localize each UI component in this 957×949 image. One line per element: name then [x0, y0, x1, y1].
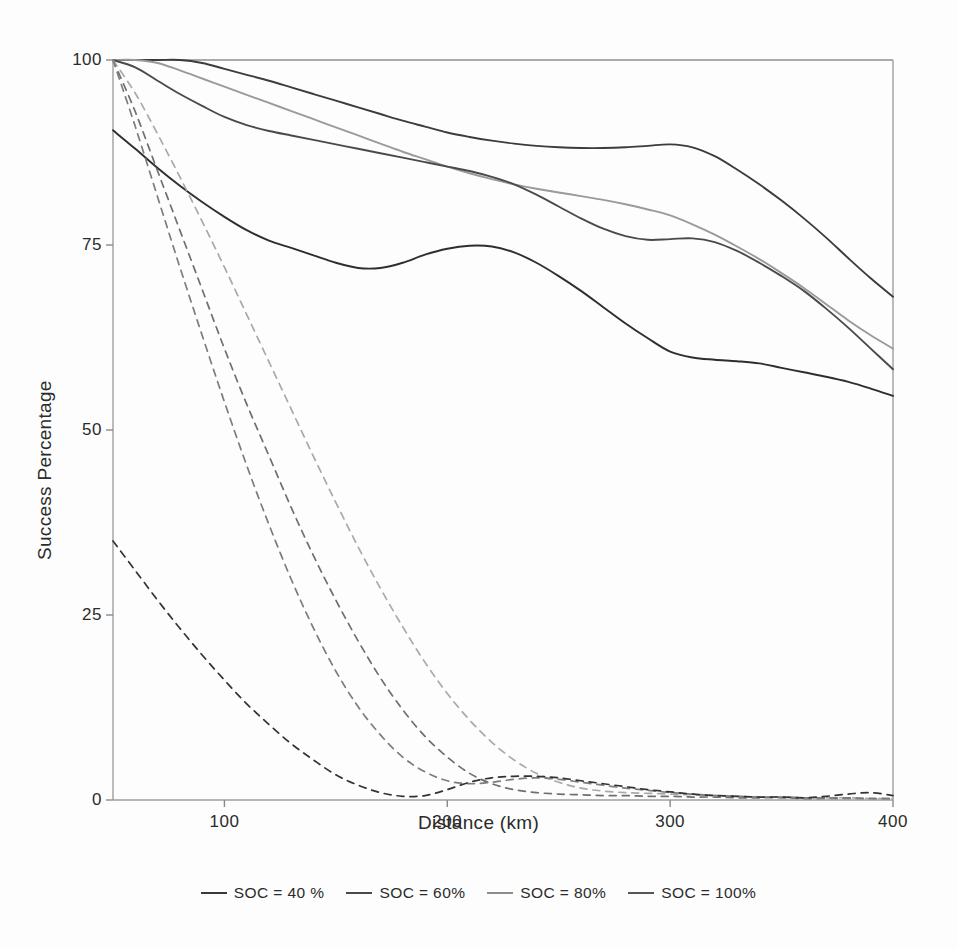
y-tick-label: 25 — [46, 605, 102, 625]
legend-line-icon — [201, 892, 227, 894]
x-axis-title: Distance (km) — [0, 812, 957, 834]
legend-label: SOC = 40 % — [234, 884, 325, 902]
legend-label: SOC = 80% — [520, 884, 606, 902]
series-line — [113, 60, 893, 799]
series-line — [113, 60, 893, 799]
series-line — [113, 60, 893, 369]
y-axis-title: Success Percentage — [34, 380, 56, 560]
legend-item[interactable]: SOC = 40 % — [190, 884, 336, 902]
figure-canvas: 1007550250 100200300400 Distance (km) Su… — [0, 0, 957, 949]
legend-label: SOC = 60% — [379, 884, 465, 902]
series-line — [113, 60, 893, 349]
legend-line-icon — [628, 892, 654, 894]
y-tick-label: 0 — [46, 790, 102, 810]
chart-legend: SOC = 40 %SOC = 60%SOC = 80%SOC = 100% — [0, 884, 957, 902]
series-line — [113, 541, 893, 798]
legend-item[interactable]: SOC = 60% — [335, 884, 476, 902]
legend-item[interactable]: SOC = 80% — [476, 884, 617, 902]
legend-line-icon — [487, 892, 513, 894]
data-series-layer — [113, 60, 893, 799]
legend-line-icon — [346, 892, 372, 894]
legend-item[interactable]: SOC = 100% — [617, 884, 767, 902]
legend-label: SOC = 100% — [661, 884, 756, 902]
tick-marks — [106, 60, 893, 807]
series-line — [113, 130, 893, 396]
series-line — [113, 60, 893, 297]
series-line — [113, 60, 893, 799]
axis-frame — [113, 60, 893, 800]
y-tick-label: 100 — [46, 50, 102, 70]
y-tick-label: 75 — [46, 235, 102, 255]
chart-plot-area — [0, 0, 957, 860]
